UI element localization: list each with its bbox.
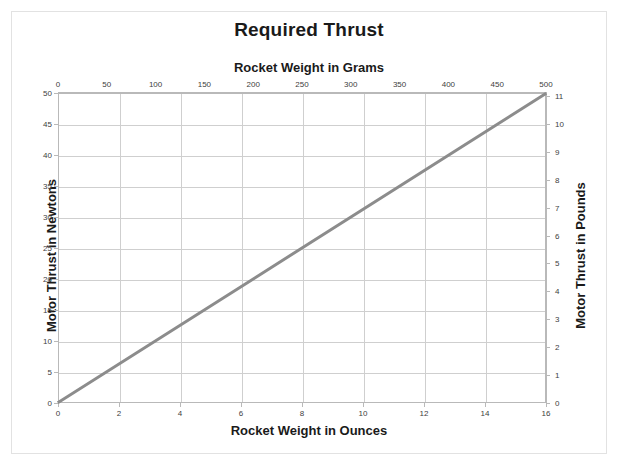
y-axis-tick-label-newtons: 0: [32, 399, 52, 408]
top-axis-tick-label-grams: 300: [344, 80, 357, 89]
y-axis-tick-label-newtons: 45: [32, 120, 52, 129]
y-axis-tick-label-newtons: 25: [32, 244, 52, 253]
x-axis-tick-label-ounces: 12: [420, 409, 429, 418]
right-axis-tick-mark: [546, 152, 550, 153]
top-axis-tick-label-grams: 150: [198, 80, 211, 89]
data-line-series-0: [59, 94, 545, 402]
top-axis-tick-label-grams: 50: [102, 80, 111, 89]
right-axis-tick-label-pounds: 11: [555, 92, 563, 101]
y-axis-tick-label-newtons: 35: [32, 182, 52, 191]
right-axis-tick-mark: [546, 208, 550, 209]
chart-root: Required Thrust Rocket Weight in Grams R…: [0, 0, 618, 465]
right-axis-tick-mark: [546, 347, 550, 348]
x-axis-tick-mark: [180, 403, 181, 407]
x-axis-tick-mark: [241, 403, 242, 407]
top-axis-tick-label-grams: 200: [247, 80, 260, 89]
top-axis-tick-label-grams: 350: [393, 80, 406, 89]
right-axis-tick-mark: [546, 263, 550, 264]
right-axis-tick-label-pounds: 6: [555, 231, 559, 240]
left-axis-title: Motor Thrust in Newtons: [44, 101, 59, 411]
plot-area: [58, 93, 546, 403]
top-axis-tick-label-grams: 0: [56, 80, 60, 89]
top-axis-tick-label-grams: 400: [442, 80, 455, 89]
x-axis-tick-mark: [424, 403, 425, 407]
y-axis-tick-label-newtons: 30: [32, 213, 52, 222]
x-axis-tick-label-ounces: 14: [481, 409, 490, 418]
right-axis-tick-mark: [546, 375, 550, 376]
x-axis-tick-mark: [119, 403, 120, 407]
right-axis-tick-mark: [546, 124, 550, 125]
right-axis-title: Motor Thrust in Pounds: [573, 101, 588, 411]
y-axis-tick-label-newtons: 15: [32, 306, 52, 315]
right-axis-tick-label-pounds: 1: [555, 371, 559, 380]
right-axis-tick-mark: [546, 291, 550, 292]
right-axis-tick-label-pounds: 3: [555, 315, 559, 324]
right-axis-tick-mark: [546, 319, 550, 320]
right-axis-tick-label-pounds: 4: [555, 287, 559, 296]
y-axis-tick-label-newtons: 50: [32, 89, 52, 98]
top-axis-tick-label-grams: 450: [491, 80, 504, 89]
chart-title: Required Thrust: [0, 19, 618, 41]
top-axis-title: Rocket Weight in Grams: [0, 60, 618, 75]
right-axis-tick-label-pounds: 8: [555, 175, 559, 184]
x-axis-tick-label-ounces: 10: [359, 409, 368, 418]
y-axis-tick-label-newtons: 10: [32, 337, 52, 346]
x-axis-tick-mark: [485, 403, 486, 407]
right-axis-tick-label-pounds: 5: [555, 259, 559, 268]
right-axis-tick-label-pounds: 2: [555, 343, 559, 352]
top-axis-tick-label-grams: 250: [295, 80, 308, 89]
x-axis-tick-mark: [302, 403, 303, 407]
data-series-layer: [59, 94, 545, 402]
bottom-axis-title: Rocket Weight in Ounces: [0, 423, 618, 438]
x-axis-tick-label-ounces: 4: [178, 409, 182, 418]
right-axis-tick-mark: [546, 96, 550, 97]
y-axis-tick-label-newtons: 5: [32, 368, 52, 377]
x-axis-tick-label-ounces: 6: [239, 409, 243, 418]
right-axis-tick-label-pounds: 9: [555, 147, 559, 156]
x-axis-tick-mark: [363, 403, 364, 407]
y-axis-tick-label-newtons: 40: [32, 151, 52, 160]
right-axis-tick-mark: [546, 236, 550, 237]
x-axis-tick-label-ounces: 2: [117, 409, 121, 418]
top-axis-tick-label-grams: 500: [539, 80, 552, 89]
right-axis-line: [546, 96, 547, 403]
right-axis-tick-label-pounds: 10: [555, 119, 564, 128]
right-axis-tick-mark: [546, 403, 550, 404]
top-axis-tick-label-grams: 100: [149, 80, 162, 89]
x-axis-tick-label-ounces: 16: [542, 409, 551, 418]
right-axis-tick-label-pounds: 7: [555, 203, 559, 212]
x-axis-tick-label-ounces: 0: [56, 409, 60, 418]
right-axis-tick-label-pounds: 0: [555, 399, 559, 408]
right-axis-tick-mark: [546, 180, 550, 181]
x-axis-tick-label-ounces: 8: [300, 409, 304, 418]
y-axis-tick-label-newtons: 20: [32, 275, 52, 284]
